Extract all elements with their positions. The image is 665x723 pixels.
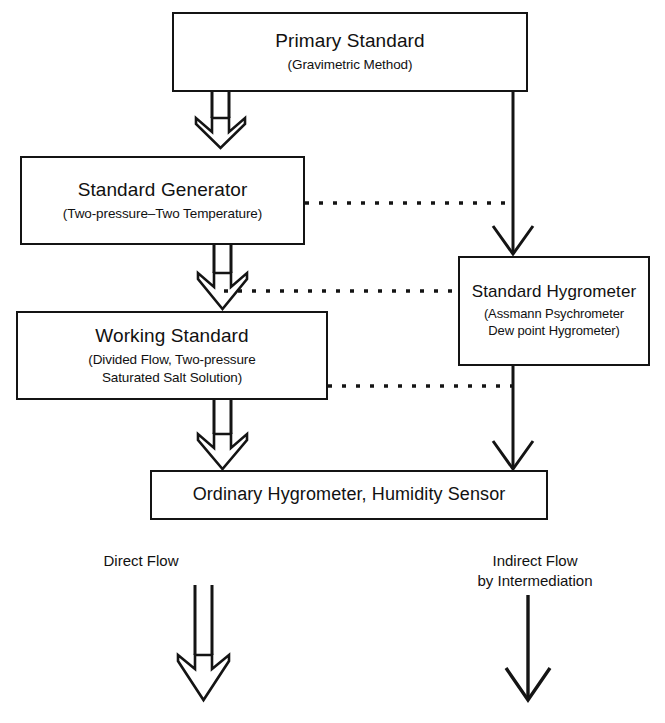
node-standard-hygrometer[interactable]: Standard Hygrometer (Assmann Psychromete… xyxy=(458,256,650,366)
legend-indirect-flow-arrow xyxy=(506,595,550,700)
node-standard-generator[interactable]: Standard Generator (Two-pressure–Two Tem… xyxy=(20,156,305,245)
node-working-standard-subtitle-line1: (Divided Flow, Two-pressure xyxy=(88,351,255,369)
edge-generator-to-working xyxy=(198,245,247,309)
edge-working-to-ordinary xyxy=(198,400,247,469)
node-ordinary-hygrometer[interactable]: Ordinary Hygrometer, Humidity Sensor xyxy=(150,470,548,520)
legend-indirect-flow: Indirect Flow by Intermediation xyxy=(440,551,630,592)
node-standard-hygrometer-title: Standard Hygrometer xyxy=(472,282,636,302)
legend-direct-flow-label-line1: Direct Flow xyxy=(66,551,216,571)
node-standard-generator-subtitle: (Two-pressure–Two Temperature) xyxy=(63,205,262,223)
legend-indirect-flow-label-line2: by Intermediation xyxy=(440,571,630,591)
flow-diagram: Primary Standard (Gravimetric Method) St… xyxy=(0,0,665,723)
legend-direct-flow: Direct Flow xyxy=(66,551,216,571)
legend-indirect-flow-label-line1: Indirect Flow xyxy=(440,551,630,571)
edge-primary-to-hygrometer xyxy=(493,92,533,254)
node-standard-generator-title: Standard Generator xyxy=(78,179,248,201)
node-primary-standard-subtitle: (Gravimetric Method) xyxy=(288,56,413,74)
node-working-standard-subtitle-line2: Saturated Salt Solution) xyxy=(102,369,242,387)
node-standard-hygrometer-subtitle-line1: (Assmann Psychrometer xyxy=(484,306,624,323)
node-working-standard-title: Working Standard xyxy=(95,325,248,347)
node-ordinary-hygrometer-title: Ordinary Hygrometer, Humidity Sensor xyxy=(193,484,506,505)
node-working-standard[interactable]: Working Standard (Divided Flow, Two-pres… xyxy=(16,311,328,400)
node-primary-standard-title: Primary Standard xyxy=(275,30,424,52)
edge-primary-to-generator xyxy=(196,92,245,148)
edge-hygrometer-to-ordinary xyxy=(493,366,533,469)
legend-direct-flow-arrow xyxy=(178,585,229,700)
node-standard-hygrometer-subtitle-line2: Dew point Hygrometer) xyxy=(488,323,620,340)
node-primary-standard[interactable]: Primary Standard (Gravimetric Method) xyxy=(172,12,528,92)
